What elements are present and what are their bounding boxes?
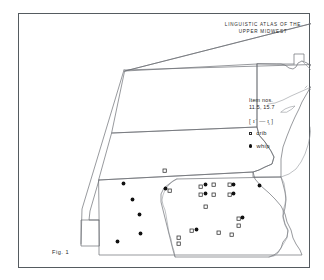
symbol-crib — [212, 183, 215, 186]
filled-dot-icon — [249, 144, 252, 147]
symbol-crib — [199, 193, 202, 196]
figure-root: LINGUISTIC ATLAS OF THE UPPER MIDWEST It… — [0, 0, 324, 280]
symbol-crib — [228, 183, 231, 186]
lake-superior-north-shore — [302, 61, 311, 99]
legend-entry-crib: crib — [249, 129, 307, 137]
atlas-title-line-2: UPPER MIDWEST — [215, 28, 311, 35]
symbol-whip — [139, 232, 143, 236]
symbol-crib — [212, 193, 215, 196]
symbol-crib — [199, 185, 202, 188]
symbol-crib — [168, 189, 171, 192]
symbol-crib — [204, 205, 207, 208]
symbol-crib — [228, 193, 231, 196]
symbol-whip — [204, 183, 208, 187]
legend-phonetic-notation: [ ɪ˙ — ɪ̥ ] — [249, 117, 307, 125]
legend-entry-whip: whip — [249, 142, 307, 150]
map-geography — [81, 54, 311, 257]
figure-caption: Fig. 1 — [52, 249, 69, 255]
data-symbols-layer — [116, 169, 262, 245]
symbol-whip — [116, 240, 120, 244]
symbol-crib — [163, 169, 166, 172]
atlas-title: LINGUISTIC ATLAS OF THE UPPER MIDWEST — [215, 21, 311, 35]
series-whip-symbols — [116, 182, 262, 244]
legend-item-nos-line-2: 11.5, 15.7 — [249, 104, 307, 111]
mississippi-river-border — [269, 177, 288, 257]
legend-label-crib: crib — [256, 129, 267, 137]
symbol-whip — [204, 192, 208, 196]
legend-label-whip: whip — [256, 142, 269, 150]
symbol-whip — [138, 213, 142, 217]
symbol-crib — [237, 217, 240, 220]
symbol-crib — [237, 224, 240, 227]
nd-north-border — [124, 60, 311, 70]
symbol-crib — [177, 236, 180, 239]
atlas-title-line-1: LINGUISTIC ATLAS OF THE — [215, 21, 311, 28]
symbol-crib — [217, 231, 220, 234]
symbol-whip — [241, 216, 245, 220]
symbol-whip — [232, 183, 236, 187]
north-dakota-outline — [112, 64, 257, 133]
map-frame: LINGUISTIC ATLAS OF THE UPPER MIDWEST It… — [18, 13, 310, 268]
symbol-whip — [258, 184, 262, 188]
open-square-icon — [249, 132, 252, 135]
symbol-crib — [230, 233, 233, 236]
legend-item-nos-line-1: Item nos. — [249, 97, 307, 104]
symbol-whip — [232, 192, 236, 196]
nebraska-outline — [81, 172, 302, 255]
symbol-crib — [190, 229, 193, 232]
dakotas-west-edge — [81, 70, 124, 244]
nebraska-panhandle-notch — [89, 180, 99, 220]
legend: Item nos. 11.5, 15.7 [ ɪ˙ — ɪ̥ ] crib wh… — [249, 97, 307, 150]
symbol-whip — [164, 187, 168, 191]
symbol-whip — [195, 228, 199, 232]
legend-item-numbers: Item nos. 11.5, 15.7 — [249, 97, 307, 111]
symbol-whip — [122, 182, 126, 186]
symbol-crib — [177, 242, 180, 245]
symbol-whip — [131, 198, 135, 202]
